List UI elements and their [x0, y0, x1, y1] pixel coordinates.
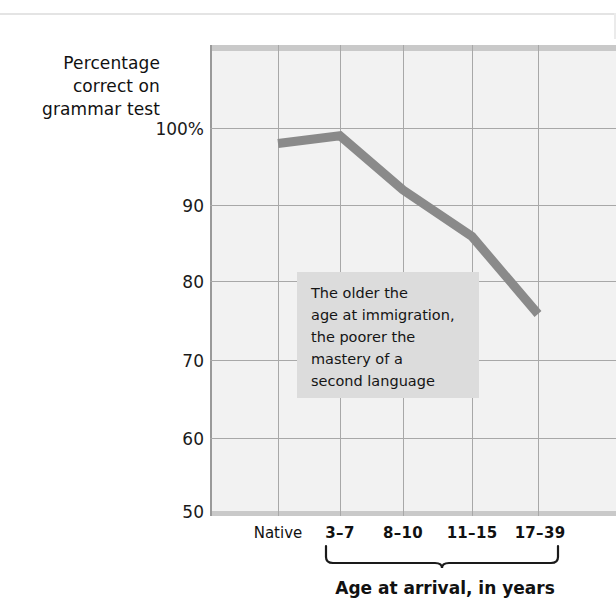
y-tick-label-50: 50 — [144, 502, 204, 522]
y-axis-title-line-3: grammar test — [0, 98, 160, 121]
y-tick-label-60: 60 — [144, 429, 204, 449]
y-tick-label-70: 70 — [144, 351, 204, 371]
y-axis-title-line-1: Percentage — [0, 52, 160, 75]
gridline-x-native — [278, 45, 279, 516]
y-tick-label-80: 80 — [144, 272, 204, 292]
annotation-line-4: mastery of a — [311, 348, 479, 370]
annotation-line-5: second language — [311, 370, 479, 392]
annotation-line-2: age at immigration, — [311, 304, 479, 326]
y-axis-title: Percentage correct on grammar test — [0, 52, 160, 121]
annotation-line-3: the poorer the — [311, 326, 479, 348]
gridline-y-100 — [210, 128, 616, 129]
age-group-brace — [326, 546, 558, 568]
gridline-x-17-39 — [538, 45, 539, 516]
x-tick-label-8-10: 8–10 — [365, 524, 441, 542]
annotation-callout: The older the age at immigration, the po… — [297, 272, 479, 398]
gridline-y-60 — [210, 438, 616, 439]
page-top-rule — [0, 13, 616, 15]
annotation-line-1: The older the — [311, 282, 479, 304]
x-axis-title: Age at arrival, in years — [325, 578, 565, 598]
y-tick-label-100: 100% — [134, 119, 204, 139]
gridline-y-90 — [210, 205, 616, 206]
chart-figure: Percentage correct on grammar test 100% … — [0, 0, 616, 604]
plot-top-band — [210, 45, 616, 51]
plot-bottom-band — [210, 511, 616, 516]
y-tick-label-90: 90 — [144, 196, 204, 216]
x-tick-label-17-39: 17–39 — [500, 524, 580, 542]
y-axis-title-line-2: correct on — [0, 75, 160, 98]
